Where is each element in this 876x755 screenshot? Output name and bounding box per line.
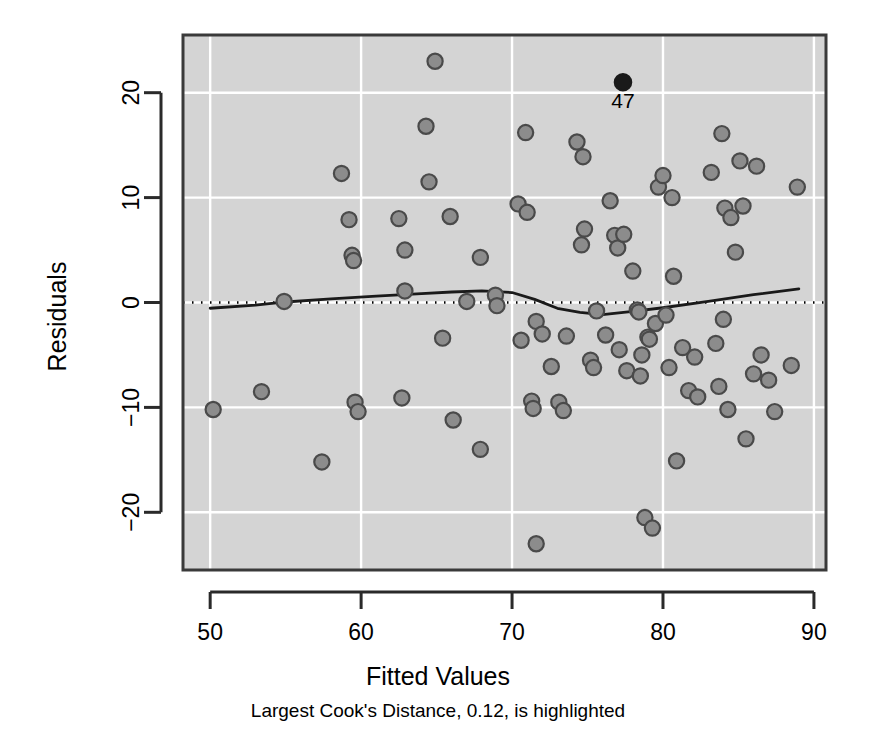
- y-tick-label: 20: [118, 80, 144, 106]
- x-tick-label: 70: [499, 619, 525, 645]
- x-tick-label: 90: [801, 619, 827, 645]
- residuals-vs-fitted-chart: 47 5060708090−20−1001020 Residuals Fitte…: [0, 0, 876, 755]
- y-tick-label: −20: [118, 493, 144, 532]
- chart-subtitle: Largest Cook's Distance, 0.12, is highli…: [0, 700, 876, 722]
- y-tick-label: 10: [118, 185, 144, 211]
- highlighted-point: 47: [611, 74, 634, 112]
- x-axis-title: Fitted Values: [0, 662, 876, 691]
- y-tick-label: 0: [118, 296, 144, 309]
- y-tick-label: −10: [118, 388, 144, 427]
- x-tick-label: 80: [650, 619, 676, 645]
- plot-canvas: 47 5060708090−20−1001020: [0, 0, 876, 755]
- y-axis-title: Residuals: [43, 237, 72, 397]
- x-tick-label: 50: [197, 619, 223, 645]
- highlighted-point-label: 47: [611, 89, 634, 112]
- x-tick-label: 60: [348, 619, 374, 645]
